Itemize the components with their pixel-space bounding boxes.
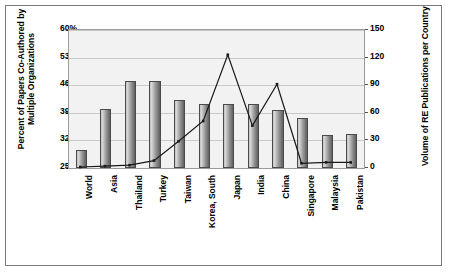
right-axis-tick-label: 90 (370, 79, 398, 88)
right-axis-tick-label: 60 (370, 107, 398, 116)
bar (174, 100, 185, 168)
x-axis-label: Turkey (158, 175, 168, 202)
bar (149, 81, 160, 168)
x-axis-label: China (281, 175, 291, 199)
bar (322, 135, 333, 169)
x-axis-label: Pakistan (355, 175, 365, 210)
right-axis-tick-mark (365, 29, 368, 30)
bar (346, 134, 357, 168)
bar (223, 104, 234, 168)
bar (248, 104, 259, 168)
x-axis-label: Malaysia (330, 175, 340, 210)
x-axis-label: Taiwan (183, 175, 193, 203)
right-axis-tick-label: 120 (370, 52, 398, 61)
bar (76, 150, 87, 168)
x-axis-label: Singapore (306, 175, 316, 217)
right-axis-tick-label: 30 (370, 134, 398, 143)
bar (199, 104, 210, 168)
plot-area (68, 29, 365, 169)
bar (125, 81, 136, 168)
bar (100, 109, 111, 168)
left-axis-title: Percent of Papers Co-Authored by Multipl… (16, 0, 30, 164)
chart-frame: Percent of Papers Co-Authored by Multipl… (5, 5, 442, 266)
x-axis-label: World (84, 175, 94, 199)
right-axis-tick-mark (365, 167, 368, 168)
right-axis-tick-label: 0 (370, 162, 398, 171)
x-axis-label: Korea, South (207, 175, 217, 228)
bar (272, 110, 283, 168)
right-axis-tick-label: 150 (370, 24, 398, 33)
right-axis-title-text: Volume of RE Publications per Country (420, 6, 430, 166)
right-axis-title: Volume of RE Publications per Country (420, 6, 430, 166)
right-axis-tick-mark (365, 57, 368, 58)
bar-series (69, 30, 364, 168)
x-axis-label: Asia (109, 175, 119, 193)
x-axis-label: India (256, 175, 266, 195)
right-axis-tick-mark (365, 84, 368, 85)
x-axis-label: Japan (232, 175, 242, 200)
x-axis-label: Thailand (134, 175, 144, 210)
right-axis-tick-mark (365, 112, 368, 113)
bar (297, 118, 308, 168)
x-axis-labels: WorldAsiaThailandTurkeyTaiwanKorea, Sout… (68, 173, 365, 243)
right-axis-tick-mark (365, 139, 368, 140)
